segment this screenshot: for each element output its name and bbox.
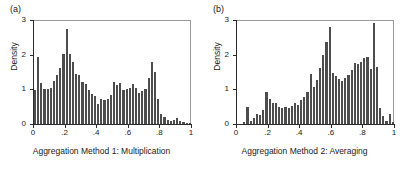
panel-label-b: (b) [213, 4, 224, 14]
figure-container: (a) Density Aggregation Method 1: Multip… [0, 0, 406, 180]
x-axis-line-b [236, 124, 395, 125]
histogram-bars-b [237, 20, 394, 124]
y-tick-mark [30, 89, 33, 90]
chart-panel-b: (b) Density Aggregation Method 2: Averag… [203, 0, 406, 180]
y-tick-mark [233, 20, 236, 21]
y-tick-label: 2 [4, 51, 26, 59]
x-axis-line-a [33, 124, 192, 125]
y-tick-label: 0 [4, 120, 26, 128]
y-tick-mark [233, 55, 236, 56]
y-tick-label: 1 [4, 85, 26, 93]
y-tick-label: 3 [207, 16, 229, 24]
y-tick-label: 0 [207, 120, 229, 128]
y-tick-label: 3 [4, 16, 26, 24]
histogram-bar [392, 122, 394, 124]
chart-panel-a: (a) Density Aggregation Method 1: Multip… [0, 0, 203, 180]
x-axis-label-b: Aggregation Method 2: Averaging [203, 146, 406, 156]
panel-label-a: (a) [10, 4, 21, 14]
x-axis-label-a: Aggregation Method 1: Multiplication [0, 146, 203, 156]
x-tick-label: .6 [323, 129, 339, 137]
x-tick-label: .4 [88, 129, 104, 137]
x-tick-label: .6 [120, 129, 136, 137]
x-tick-label: .4 [291, 129, 307, 137]
x-tick-label: .2 [260, 129, 276, 137]
x-tick-label: 1 [183, 129, 199, 137]
x-tick-label: 0 [228, 129, 244, 137]
x-tick-label: 1 [386, 129, 402, 137]
y-tick-mark [233, 89, 236, 90]
x-tick-label: 0 [25, 129, 41, 137]
y-tick-label: 2 [207, 51, 229, 59]
x-tick-label: .2 [57, 129, 73, 137]
y-tick-mark [30, 20, 33, 21]
histogram-bars-a [34, 20, 191, 124]
x-tick-label: .8 [354, 129, 370, 137]
y-tick-label: 1 [207, 85, 229, 93]
histogram-bar [189, 123, 191, 124]
x-tick-label: .8 [151, 129, 167, 137]
y-tick-mark [30, 55, 33, 56]
